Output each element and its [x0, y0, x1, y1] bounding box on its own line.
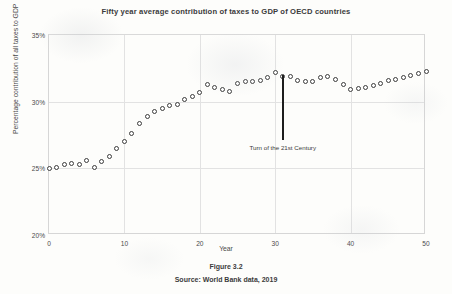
data-point — [265, 75, 270, 80]
data-point — [303, 79, 308, 84]
data-point — [295, 78, 300, 83]
y-tick-label: 25% — [23, 165, 45, 172]
data-point — [84, 158, 89, 163]
data-point — [333, 77, 338, 82]
data-point — [288, 74, 293, 79]
data-point — [250, 79, 255, 84]
data-point — [54, 165, 59, 170]
data-point — [310, 79, 315, 84]
y-tick-label: 20% — [23, 232, 45, 239]
data-point — [69, 161, 74, 166]
gridline-vertical — [351, 35, 352, 233]
data-point — [175, 102, 180, 107]
x-axis-tick-labels: 01020304050 — [49, 35, 424, 233]
gridline-vertical — [275, 35, 276, 233]
data-point — [341, 82, 346, 87]
data-point — [152, 109, 157, 114]
data-point — [363, 85, 368, 90]
data-point — [401, 75, 406, 80]
gridline-horizontal — [49, 168, 424, 169]
data-point — [99, 159, 104, 164]
data-point — [318, 75, 323, 80]
annotation-marker-line — [282, 75, 284, 140]
data-point — [122, 139, 127, 144]
data-point — [114, 146, 119, 151]
data-point — [145, 114, 150, 119]
data-point — [235, 81, 240, 86]
plot-area: 20%25%30%35% 01020304050 Turn of the 21s… — [48, 34, 425, 234]
data-point — [47, 166, 52, 171]
chart-title: Fifty year average contribution of taxes… — [0, 7, 452, 16]
data-point — [220, 87, 225, 92]
y-tick-label: 35% — [23, 32, 45, 39]
data-point — [227, 89, 232, 94]
data-point — [129, 131, 134, 136]
y-axis-tick-labels: 20%25%30%35% — [49, 35, 424, 233]
data-point — [386, 78, 391, 83]
data-point — [371, 83, 376, 88]
data-point — [167, 103, 172, 108]
data-point — [243, 79, 248, 84]
data-point — [325, 74, 330, 79]
data-point — [205, 82, 210, 87]
data-point — [378, 81, 383, 86]
data-point — [258, 78, 263, 83]
data-point — [348, 87, 353, 92]
annotation-label: Turn of the 21st Century — [249, 144, 316, 151]
data-point — [92, 165, 97, 170]
data-point — [356, 86, 361, 91]
data-point — [393, 77, 398, 82]
data-point — [77, 162, 82, 167]
data-point — [107, 154, 112, 159]
figure-caption: Figure 3.2 — [0, 263, 452, 270]
gridline-horizontal — [49, 102, 424, 103]
figure-source: Source: World Bank data, 2019 — [0, 276, 452, 283]
data-point — [62, 162, 67, 167]
data-point — [273, 70, 278, 75]
data-point — [182, 97, 187, 102]
data-point — [137, 121, 142, 126]
data-point — [424, 69, 429, 74]
data-point — [160, 106, 165, 111]
gridline-vertical — [124, 35, 125, 233]
data-point — [416, 71, 421, 76]
x-axis-title: Year — [0, 245, 452, 252]
data-point — [408, 73, 413, 78]
data-point — [190, 94, 195, 99]
y-axis-title: Percentage contribution of all taxes to … — [12, 4, 19, 134]
data-point — [197, 90, 202, 95]
gridline-vertical — [200, 35, 201, 233]
data-point — [212, 85, 217, 90]
y-tick-label: 30% — [23, 98, 45, 105]
